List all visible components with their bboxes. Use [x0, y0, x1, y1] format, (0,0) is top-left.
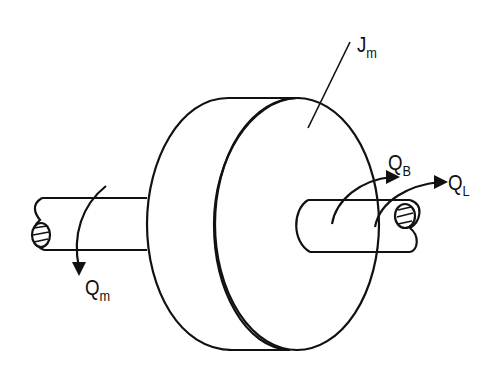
- motor-torque-arrowhead: [72, 262, 86, 276]
- flywheel-drawing: [0, 0, 501, 373]
- label-inertia: Jm: [357, 32, 377, 61]
- label-motor-torque: Qm: [85, 275, 110, 304]
- diagram: Jm Qm QB QL: [0, 0, 501, 373]
- label-load-torque: QL: [448, 170, 470, 199]
- load-torque-arrowhead: [434, 175, 448, 189]
- inertia-disk: [147, 98, 379, 350]
- label-bearing-torque: QB: [388, 150, 411, 179]
